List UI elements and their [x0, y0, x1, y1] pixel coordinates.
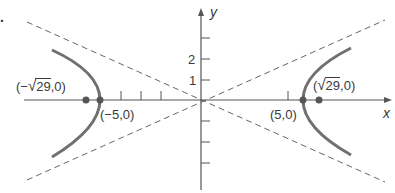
left-focus-label: (−√29,0) — [16, 78, 66, 93]
left-vertex-label: (−5,0) — [100, 108, 134, 121]
right-focus-suffix: ,0) — [340, 78, 355, 93]
y-tick-label-1: 1 — [189, 74, 196, 87]
left-focus-suffix: ,0) — [51, 79, 66, 94]
right-vertex-point — [300, 97, 307, 104]
x-axis-arrow-icon — [384, 97, 392, 103]
left-focus-prefix: (− — [16, 79, 28, 94]
right-focus-radicand: 29 — [325, 77, 340, 93]
right-focus-point — [316, 97, 323, 104]
x-ticks — [121, 91, 288, 100]
asymptote-negative-slope — [27, 22, 385, 182]
x-axis-label: x — [383, 106, 390, 120]
left-vertex-point — [97, 97, 104, 104]
figure-marker: . — [0, 10, 4, 24]
y-axis-arrow-icon — [198, 8, 204, 16]
right-vertex-label: (5,0) — [270, 108, 297, 121]
hyperbola-right-branch — [303, 48, 351, 155]
left-focus-point — [83, 97, 90, 104]
left-focus-radicand: 29 — [35, 78, 50, 94]
right-focus-label: (√29,0) — [313, 77, 355, 92]
y-axis-label: y — [210, 5, 217, 19]
y-tick-label-2: 2 — [188, 53, 195, 66]
hyperbola-diagram — [0, 0, 395, 193]
hyperbola-left-branch — [52, 50, 100, 157]
